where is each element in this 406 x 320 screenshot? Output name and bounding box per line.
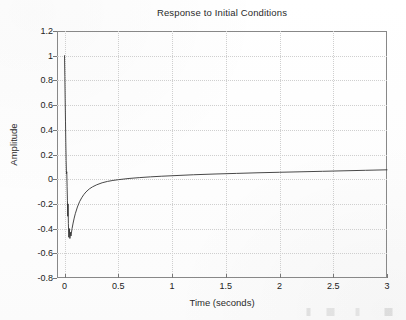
x-axis-label: Time (seconds) xyxy=(57,297,387,308)
figure-page: Response to Initial Conditions Amplitude… xyxy=(0,0,406,320)
y-axis-tick-label: 0.4 xyxy=(40,125,53,135)
y-axis-tick-label: 1 xyxy=(48,51,53,61)
chart-title: Response to Initial Conditions xyxy=(57,7,387,18)
y-axis-tick-label: -0.2 xyxy=(37,199,53,209)
y-axis-tick-label: 1.2 xyxy=(40,26,53,36)
x-axis-tick-label: 3 xyxy=(384,281,389,291)
x-axis-tick-label: 1 xyxy=(170,281,175,291)
x-axis-tick-label: 1.5 xyxy=(219,281,232,291)
x-axis-tick-label: 2 xyxy=(277,281,282,291)
y-axis-tick-label: 0.6 xyxy=(40,100,53,110)
y-axis-tick-label: 0.2 xyxy=(40,150,53,160)
plot-area: -0.8-0.6-0.4-0.200.20.40.60.811.200.511.… xyxy=(57,31,387,278)
x-axis-tick-label: 0.5 xyxy=(112,281,125,291)
y-axis-tick-label: 0 xyxy=(48,174,53,184)
x-axis-tick-label: 2.5 xyxy=(327,281,340,291)
y-axis-tick-label: -0.6 xyxy=(37,248,53,258)
series-line-initial-condition-response xyxy=(65,56,387,239)
y-axis-tick-mark xyxy=(53,278,57,279)
y-axis-tick-label: 0.8 xyxy=(40,75,53,85)
y-axis-tick-label: -0.8 xyxy=(37,273,53,283)
y-axis-tick-label: -0.4 xyxy=(37,224,53,234)
data-curve-layer xyxy=(57,31,387,278)
y-axis-label: Amplitude xyxy=(8,105,19,185)
x-axis-tick-label: 0 xyxy=(62,281,67,291)
scan-artifact-text xyxy=(300,308,406,316)
x-axis-tick-mark xyxy=(387,274,388,278)
